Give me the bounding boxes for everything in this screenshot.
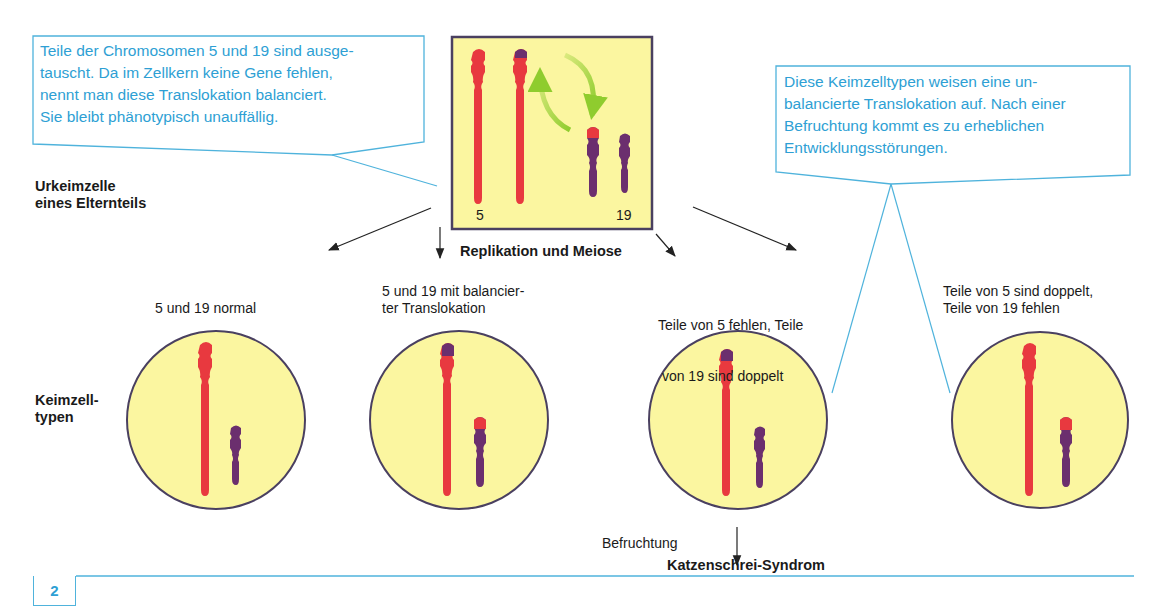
chromosome-5-label: 5 [476,207,484,224]
callout-right-line: Diese Keimzelltypen weisen eine un- [784,71,1066,93]
callout-right-line: balancierte Translokation auf. Nach eine… [784,93,1066,115]
chromosome-19-label: 19 [616,207,632,224]
parent-cell-box [452,37,652,229]
caption-line: Teile von 19 fehlen [943,300,1093,317]
germ-cell-types-label-line: Keimzell- [35,392,99,409]
parent-cell-label-line: eines Elternteils [35,195,146,212]
germ-cell-4 [952,332,1128,508]
syndrome-label: Katzenschrei-Syndrom [667,557,825,574]
callout-right-line: Befruchtung kommt es zu erheblichen [784,115,1066,137]
process-label: Replikation und Meiose [460,243,622,260]
caption-line: Teile von 5 fehlen, Teile [658,317,803,334]
callout-left-line: tauscht. Da im Zellkern keine Gene fehle… [40,62,354,84]
callout-left-line: nennt man diese Translokation balanciert… [40,84,354,106]
callout-left-text: Teile der Chromosomen 5 und 19 sind ausg… [40,40,354,128]
callout-left-line: Sie bleibt phänotypisch unauffällig. [40,106,354,128]
germ-cell-1-caption: 5 und 19 normal [155,300,256,317]
caption-line: von 19 sind doppelt [658,368,803,385]
parent-cell-label-line: Urkeimzelle [35,178,146,195]
germ-cell-types-label-line: typen [35,409,99,426]
caption-line: ter Translokation [382,300,524,317]
callout-right-text: Diese Keimzelltypen weisen eine un- bala… [784,71,1066,159]
germ-cell-2 [370,331,548,509]
germ-cell-2-caption: 5 und 19 mit balancier- ter Translokatio… [382,283,524,317]
germ-cell-types-label: Keimzell- typen [35,392,99,426]
callout-right-line: Entwicklungsstörungen. [784,137,1066,159]
germ-cell-1 [127,331,305,509]
germ-cell-3-caption: Teile von 5 fehlen, Teile von 19 sind do… [658,283,803,419]
parent-cell-label: Urkeimzelle eines Elternteils [35,178,146,212]
germ-cell-4-caption: Teile von 5 sind doppelt, Teile von 19 f… [943,283,1093,317]
page-number: 2 [33,576,76,606]
caption-line: 5 und 19 mit balancier- [382,283,524,300]
translocation-diagram: Teile der Chromosomen 5 und 19 sind ausg… [0,0,1157,614]
callout-left-line: Teile der Chromosomen 5 und 19 sind ausg… [40,40,354,62]
fertilization-label: Befruchtung [602,535,678,552]
caption-line: Teile von 5 sind doppelt, [943,283,1093,300]
caption-line: 5 und 19 normal [155,300,256,317]
